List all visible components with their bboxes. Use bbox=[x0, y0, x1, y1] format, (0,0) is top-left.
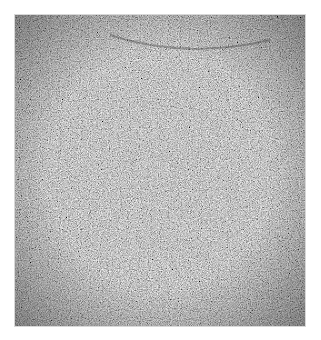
edge-vignette bbox=[15, 15, 305, 326]
noise-texture bbox=[15, 15, 305, 326]
texture-image bbox=[15, 15, 305, 326]
